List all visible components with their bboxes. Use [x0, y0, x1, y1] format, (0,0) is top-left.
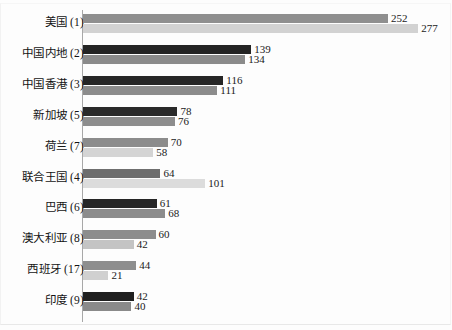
- bar-value-label: 111: [217, 83, 236, 97]
- bar-series-a: 78: [83, 107, 177, 116]
- bar-rect: [83, 271, 108, 280]
- bar-value-label: 60: [156, 227, 170, 241]
- bar-series-a: 42: [83, 292, 134, 301]
- bar-rect: [83, 14, 388, 23]
- bar-series-b: 58: [83, 148, 153, 157]
- bar-rect: [83, 117, 175, 126]
- bar-series-b: 68: [83, 209, 165, 218]
- bar-series-a: 64: [83, 169, 160, 178]
- category-label: 西班牙 (17): [0, 262, 84, 276]
- category-label: 中国香港 (3): [0, 77, 84, 91]
- bar-chart: 美国 (1)252277中国内地 (2)139134中国香港 (3)116111…: [0, 0, 452, 330]
- category-label: 新加坡 (5): [0, 108, 84, 122]
- bar-row: 巴西 (6)6168: [0, 194, 452, 225]
- bar-value-label: 70: [168, 135, 182, 149]
- bar-rect: [83, 169, 160, 178]
- bar-row: 西班牙 (17)4421: [0, 256, 452, 287]
- bar-series-b: 134: [83, 55, 245, 64]
- bar-series-a: 70: [83, 138, 168, 147]
- bar-rect: [83, 86, 217, 95]
- bar-value-label: 40: [131, 299, 145, 313]
- bar-rect: [83, 55, 245, 64]
- bar-value-label: 277: [418, 21, 438, 35]
- bar-series-a: 44: [83, 261, 136, 270]
- bar-series-b: 42: [83, 240, 134, 249]
- bar-series-a: 252: [83, 14, 388, 23]
- category-label: 美国 (1): [0, 15, 84, 29]
- bar-rect: [83, 179, 205, 188]
- bar-series-b: 21: [83, 271, 108, 280]
- bar-value-label: 68: [165, 206, 179, 220]
- bar-value-label: 42: [137, 237, 148, 251]
- category-label: 巴西 (6): [0, 200, 84, 214]
- bar-series-b: 101: [83, 179, 205, 188]
- bar-row: 联合王国 (4)64101: [0, 164, 452, 195]
- bar-series-b: 277: [83, 24, 418, 33]
- bar-row: 印度 (9)4240: [0, 287, 452, 318]
- bar-value-label: 21: [111, 268, 122, 282]
- category-label: 联合王国 (4): [0, 170, 84, 184]
- bar-rect: [83, 199, 157, 208]
- bar-row: 美国 (1)252277: [0, 9, 452, 40]
- bar-rect: [83, 240, 134, 249]
- bar-rect: [83, 292, 134, 301]
- bar-value-label: 101: [205, 176, 225, 190]
- bar-value-label: 76: [175, 114, 189, 128]
- bar-value-label: 44: [136, 258, 150, 272]
- bar-series-a: 139: [83, 45, 251, 54]
- bar-value-label: 252: [388, 11, 408, 25]
- category-label: 中国内地 (2): [0, 46, 84, 60]
- bar-row: 中国香港 (3)116111: [0, 71, 452, 102]
- bar-rect: [83, 148, 153, 157]
- bar-rect: [83, 45, 251, 54]
- bar-rect: [83, 107, 177, 116]
- bar-rect: [83, 76, 223, 85]
- bar-series-a: 61: [83, 199, 157, 208]
- bar-series-b: 40: [83, 302, 131, 311]
- bar-rect: [83, 302, 131, 311]
- bar-value-label: 58: [156, 145, 167, 159]
- bar-rect: [83, 209, 165, 218]
- bar-series-a: 116: [83, 76, 223, 85]
- bar-row: 荷兰 (7)7058: [0, 133, 452, 164]
- bar-row: 中国内地 (2)139134: [0, 40, 452, 71]
- bar-rows-container: 美国 (1)252277中国内地 (2)139134中国香港 (3)116111…: [0, 0, 452, 330]
- bar-value-label: 64: [160, 166, 174, 180]
- bar-row: 澳大利亚 (8)6042: [0, 225, 452, 256]
- bar-rect: [83, 261, 136, 270]
- category-label: 澳大利亚 (8): [0, 231, 84, 245]
- bar-row: 新加坡 (5)7876: [0, 102, 452, 133]
- bar-series-b: 76: [83, 117, 175, 126]
- bar-rect: [83, 24, 418, 33]
- bar-value-label: 134: [245, 52, 265, 66]
- bar-rect: [83, 138, 168, 147]
- category-label: 印度 (9): [0, 293, 84, 307]
- category-label: 荷兰 (7): [0, 139, 84, 153]
- bar-series-b: 111: [83, 86, 217, 95]
